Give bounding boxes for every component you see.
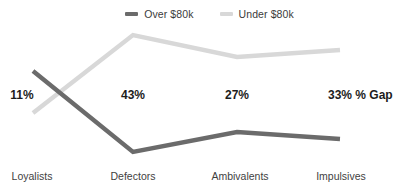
line-swatch-icon-under-80k: [220, 12, 233, 16]
legend-item-over-80k[interactable]: Over $80k: [125, 8, 193, 20]
line-swatch-icon-over-80k: [125, 12, 138, 16]
category-label-ambivalents: Ambivalents: [211, 168, 268, 184]
chart-legend: Over $80k Under $80k: [0, 6, 419, 22]
gap-axis-label: % Gap: [355, 86, 392, 104]
category-label-row: Loyalists Defectors Ambivalents Impulsiv…: [0, 168, 419, 184]
legend-label-under-80k: Under $80k: [239, 8, 294, 20]
category-label-impulsives: Impulsives: [316, 168, 366, 184]
gap-label-ambivalents: 27%: [225, 86, 249, 104]
gap-label-loyalists: 11%: [10, 86, 33, 104]
series-line-over-80k: [33, 71, 340, 152]
chart-container: Over $80k Under $80k 11% 43% 27% 33% % G…: [0, 0, 419, 192]
category-label-defectors: Defectors: [111, 168, 156, 184]
legend-item-under-80k[interactable]: Under $80k: [220, 8, 294, 20]
gap-label-impulsives: 33%: [328, 86, 352, 104]
legend-label-over-80k: Over $80k: [144, 8, 193, 20]
gap-label-row: 11% 43% 27% 33% % Gap: [0, 86, 419, 104]
category-label-loyalists: Loyalists: [12, 168, 53, 184]
gap-label-defectors: 43%: [121, 86, 145, 104]
